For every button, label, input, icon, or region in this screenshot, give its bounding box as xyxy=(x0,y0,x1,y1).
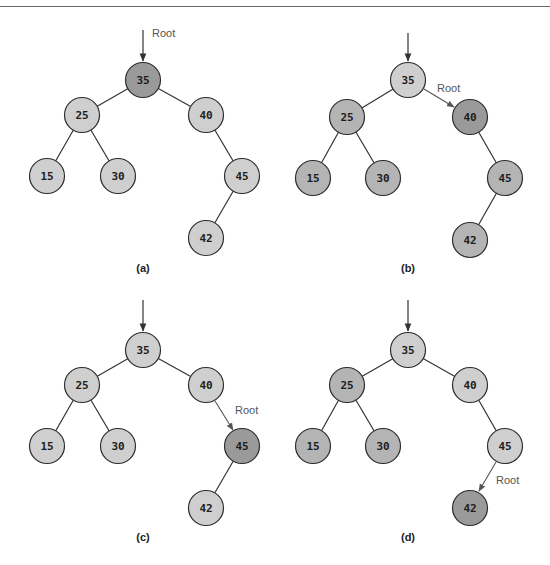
node-35: 35 xyxy=(126,333,161,368)
panel-b: Root 35 25 40 15 30 45 42 (b) xyxy=(296,33,523,274)
node-value: 15 xyxy=(306,440,319,453)
node-35: 35 xyxy=(126,63,161,98)
node-value: 35 xyxy=(401,74,414,87)
node-value: 42 xyxy=(199,502,212,515)
panel-a: Root 35 25 40 15 30 45 42 (a) xyxy=(30,27,260,274)
node-30: 30 xyxy=(366,429,401,464)
node-25: 25 xyxy=(65,98,100,133)
node-value: 35 xyxy=(401,344,414,357)
node-40: 40 xyxy=(189,368,224,403)
node-value: 15 xyxy=(40,170,53,183)
panel-caption: (d) xyxy=(401,531,415,543)
node-15: 15 xyxy=(30,159,65,194)
node-15: 15 xyxy=(296,429,331,464)
node-35: 35 xyxy=(391,333,426,368)
node-value: 30 xyxy=(376,440,389,453)
node-value: 25 xyxy=(75,379,88,392)
root-label: Root xyxy=(437,82,460,94)
panel-caption: (a) xyxy=(136,262,150,274)
node-value: 45 xyxy=(498,440,511,453)
node-40: 40 xyxy=(453,368,488,403)
node-42: 42 xyxy=(453,491,488,526)
node-value: 35 xyxy=(136,344,149,357)
node-value: 42 xyxy=(199,232,212,245)
node-value: 40 xyxy=(199,379,212,392)
node-40: 40 xyxy=(189,98,224,133)
panel-caption: (c) xyxy=(136,531,150,543)
node-value: 25 xyxy=(340,111,353,124)
node-value: 25 xyxy=(340,379,353,392)
panel-caption: (b) xyxy=(401,262,415,274)
node-value: 15 xyxy=(40,440,53,453)
node-value: 45 xyxy=(235,440,248,453)
node-42: 42 xyxy=(189,491,224,526)
node-25: 25 xyxy=(330,100,365,135)
node-25: 25 xyxy=(330,368,365,403)
node-30: 30 xyxy=(101,429,136,464)
node-value: 42 xyxy=(463,502,476,515)
node-15: 15 xyxy=(296,161,331,196)
node-value: 40 xyxy=(199,109,212,122)
node-30: 30 xyxy=(101,159,136,194)
node-45: 45 xyxy=(225,159,260,194)
node-value: 42 xyxy=(463,234,476,247)
node-42: 42 xyxy=(189,221,224,256)
node-value: 40 xyxy=(463,111,476,124)
node-value: 30 xyxy=(111,170,124,183)
node-42: 42 xyxy=(453,223,488,258)
node-30: 30 xyxy=(366,161,401,196)
node-45: 45 xyxy=(488,429,523,464)
node-value: 45 xyxy=(498,172,511,185)
node-45: 45 xyxy=(225,429,260,464)
node-value: 15 xyxy=(306,172,319,185)
root-label: Root xyxy=(496,474,519,486)
node-value: 30 xyxy=(376,172,389,185)
node-15: 15 xyxy=(30,429,65,464)
node-value: 25 xyxy=(75,109,88,122)
bst-traversal-figure: Root 35 25 40 15 30 45 42 (a) xyxy=(0,0,550,565)
node-value: 45 xyxy=(235,170,248,183)
root-label: Root xyxy=(235,404,258,416)
panel-c: Root 35 25 40 15 30 45 42 (c) xyxy=(30,300,260,543)
node-40: 40 xyxy=(453,100,488,135)
root-label: Root xyxy=(152,27,175,39)
node-value: 40 xyxy=(463,379,476,392)
node-35: 35 xyxy=(391,63,426,98)
node-45: 45 xyxy=(488,161,523,196)
root-move-arrow-icon xyxy=(215,401,233,430)
root-move-arrow-icon xyxy=(479,462,496,491)
node-25: 25 xyxy=(65,368,100,403)
node-value: 30 xyxy=(111,440,124,453)
panel-d: Root 35 25 40 15 30 45 42 (d) xyxy=(296,300,523,543)
node-value: 35 xyxy=(136,74,149,87)
